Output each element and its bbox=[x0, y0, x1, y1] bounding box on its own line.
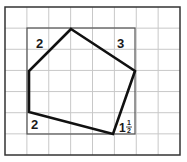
label-bottom-left-triangle: 2 bbox=[31, 117, 38, 132]
grid-lines bbox=[5, 7, 180, 155]
label-top-left-triangle: 2 bbox=[36, 36, 43, 51]
grid-diagram: 2 3 2 1 1 2 bbox=[0, 0, 187, 162]
label-bottom-right-denominator: 2 bbox=[127, 127, 131, 134]
label-bottom-right-whole: 1 bbox=[119, 121, 126, 135]
label-top-right-triangle: 3 bbox=[117, 36, 124, 51]
label-bottom-right-numerator: 1 bbox=[127, 119, 131, 126]
